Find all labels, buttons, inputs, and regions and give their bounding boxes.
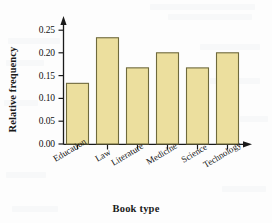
y-tick-label: 0.25 xyxy=(22,25,55,35)
y-axis-title: Relative frequency xyxy=(7,30,18,150)
y-axis-ticks xyxy=(59,30,64,144)
y-tick-label: 0.15 xyxy=(22,71,55,81)
bar-law xyxy=(97,38,119,144)
bar-medicine xyxy=(157,53,179,144)
bar-series xyxy=(67,38,239,144)
y-axis-arrowhead xyxy=(60,16,66,25)
bar-literature xyxy=(127,68,149,144)
y-tick-label: 0.00 xyxy=(22,139,55,149)
y-tick-label: 0.20 xyxy=(22,48,55,58)
x-axis-title: Book type xyxy=(0,203,272,214)
y-tick-label: 0.05 xyxy=(22,116,55,126)
bar-technology xyxy=(217,53,239,144)
y-tick-label: 0.10 xyxy=(22,93,55,103)
bar-education xyxy=(67,83,89,144)
bar-science xyxy=(187,68,209,144)
bar-chart-figure: 0.25 0.20 0.15 0.10 0.05 0.00 Education … xyxy=(0,0,272,223)
x-axis-arrowhead xyxy=(243,141,252,147)
